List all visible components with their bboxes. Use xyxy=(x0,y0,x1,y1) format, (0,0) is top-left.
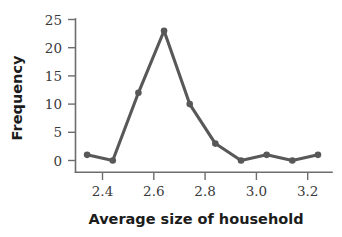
chart-canvas: 25 20 15 10 5 0 Frequency 2.4 2.6 2.8 xyxy=(0,0,342,237)
data-point xyxy=(315,152,322,159)
y-tick-label-25: 25 xyxy=(45,12,62,28)
x-axis-group: 2.4 2.6 2.8 3.0 3.2 Average size of hous… xyxy=(76,172,333,227)
x-tick-label-2-8: 2.8 xyxy=(194,183,215,199)
data-point xyxy=(263,152,270,159)
y-tick-marks xyxy=(68,20,76,161)
x-axis-title: Average size of household xyxy=(88,211,303,227)
x-tick-label-2-6: 2.6 xyxy=(143,183,164,199)
data-point xyxy=(161,27,168,34)
y-tick-label-5: 5 xyxy=(53,124,62,140)
data-point xyxy=(186,101,193,108)
y-tick-label-10: 10 xyxy=(45,96,62,112)
y-tick-label-15: 15 xyxy=(45,68,62,84)
data-point xyxy=(212,140,219,147)
x-tick-label-2-4: 2.4 xyxy=(92,183,113,199)
x-tick-label-3-2: 3.2 xyxy=(297,183,318,199)
y-tick-labels: 25 20 15 10 5 0 xyxy=(45,12,62,169)
data-point xyxy=(84,152,91,159)
y-axis-title: Frequency xyxy=(9,55,25,140)
y-tick-label-20: 20 xyxy=(45,40,62,56)
series-line-frequency xyxy=(87,31,318,161)
y-axis-group: 25 20 15 10 5 0 Frequency xyxy=(9,12,76,173)
data-point xyxy=(109,157,116,164)
frequency-polygon-figure: 25 20 15 10 5 0 Frequency 2.4 2.6 2.8 xyxy=(0,0,342,237)
data-point xyxy=(135,90,142,97)
x-tick-marks xyxy=(103,172,308,180)
data-point xyxy=(289,157,296,164)
data-point xyxy=(238,157,245,164)
data-series-frequency xyxy=(84,27,321,163)
x-tick-label-3-0: 3.0 xyxy=(246,183,267,199)
x-tick-labels: 2.4 2.6 2.8 3.0 3.2 xyxy=(92,183,319,199)
y-tick-label-0: 0 xyxy=(53,153,62,169)
